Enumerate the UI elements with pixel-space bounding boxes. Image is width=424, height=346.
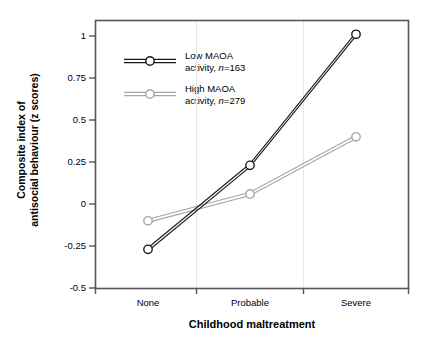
series-low-maoa-marker-3 [352,30,360,38]
series-low-maoa-line-1 [148,33,356,248]
series-low-maoa-line-2 [148,36,356,251]
gridlines [197,20,304,288]
legend-swatch-low-maoa-marker [146,57,154,65]
series-high-maoa-marker-1 [144,217,152,225]
legend-swatch-high-maoa-marker [146,90,154,98]
series-low-maoa-marker-2 [246,161,254,169]
chart-figure: Composite index of antisocial behaviour … [0,0,424,346]
legend-swatches [124,57,176,98]
series-high-maoa-marker-3 [352,133,360,141]
series-high-maoa-line-2 [148,138,356,222]
series-high-maoa-marker-2 [246,190,254,198]
plot-frame [96,21,409,289]
series-high-maoa [144,133,360,225]
legend-swatch-low-maoa [124,57,176,65]
plot-area-svg [0,0,424,346]
legend-swatch-high-maoa [124,90,176,98]
series-low-maoa [144,30,360,253]
series-low-maoa-marker-1 [144,245,152,253]
y-axis-ticks [89,36,96,288]
series-high-maoa-line-1 [148,135,356,219]
